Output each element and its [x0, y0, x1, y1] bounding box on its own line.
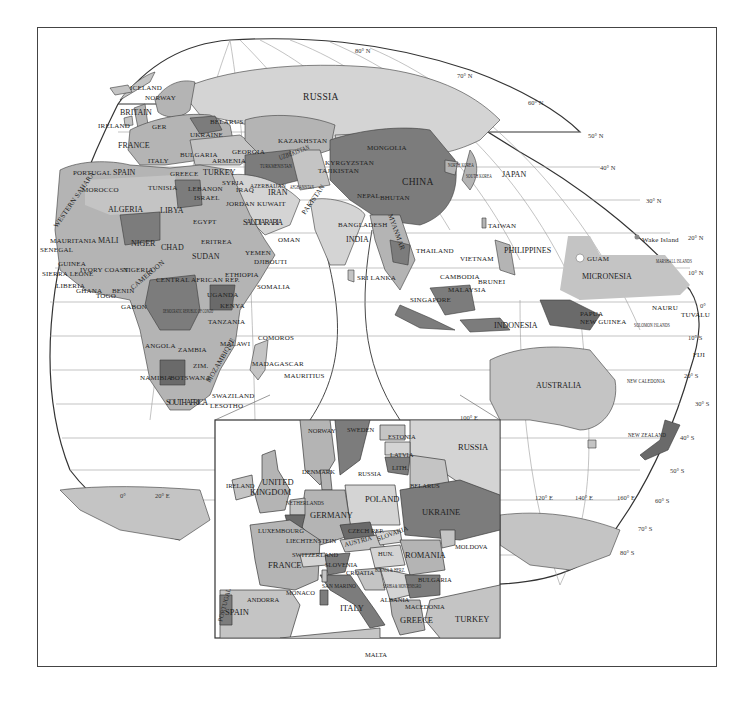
inset-label-czech: CZECH REP. [348, 527, 384, 534]
lat-50n: 50° N [588, 132, 604, 139]
label-afghanistan: AFGHANISTAN [290, 183, 314, 191]
label-tanzania: TANZANIA [208, 318, 245, 326]
label-spain: SPAIN [113, 168, 136, 177]
label-eritrea: ERITREA [201, 238, 232, 246]
label-papua: PAPUA [580, 310, 603, 318]
label-comoros: COMOROS [258, 334, 294, 342]
label-indonesia: INDONESIA [494, 321, 538, 330]
label-kazakhstan: KAZAKHSTAN [278, 137, 327, 145]
label-mongolia: MONGOLIA [367, 144, 407, 152]
inset-label-monaco: MONACO [286, 589, 315, 596]
label-niger: NIGER [131, 239, 156, 248]
label-brunei: BRUNEI [478, 278, 506, 286]
label-mali: MALI [98, 236, 119, 245]
label-zimbabwe: ZIM. [193, 362, 208, 370]
inset-label-croatia: CROATIA [346, 569, 374, 576]
lat-60n: 60° N [528, 99, 544, 106]
label-sri-lanka: SRI LANKA [357, 274, 396, 282]
inset-label-norway: NORWAY [308, 427, 336, 434]
label-lebanon: LEBANON [188, 185, 223, 193]
inset-label-poland: POLAND [365, 494, 399, 504]
label-italy: ITALY [148, 157, 169, 165]
label-nauru: NAURU [652, 304, 678, 312]
label-britain: BRITAIN [120, 108, 152, 117]
label-micronesia: MICRONESIA [582, 272, 632, 281]
label-south-korea: SOUTH KOREA [466, 172, 492, 180]
inset-label-moldova: MOLDOVA [455, 543, 488, 550]
wake-island-marker-icon [635, 235, 640, 240]
guam-marker-icon [576, 254, 584, 262]
label-north-korea: NORTH KOREA [448, 161, 474, 169]
label-south-africa: SOUTH AFRICA [166, 398, 208, 407]
inset-label-albania: ALBANIA [380, 596, 410, 603]
label-greece: GREECE [170, 170, 198, 178]
label-guam: GUAM [587, 255, 610, 263]
label-senegal: SENEGAL [40, 246, 73, 254]
lat-40s: 40° S [680, 434, 695, 441]
inset-label-bosnia: BOSNIA & HERZ. [375, 566, 405, 573]
label-zambia: ZAMBIA [178, 346, 207, 354]
inset-label-lithuania: LITH. [392, 464, 409, 471]
inset-label-estonia: ESTONIA [388, 433, 416, 440]
label-new-zealand: NEW ZEALAND [628, 431, 666, 439]
label-angola: ANGOLA [145, 342, 176, 350]
label-oman: OMAN [278, 236, 300, 244]
inset-label-sweden: SWEDEN [347, 426, 374, 433]
label-armenia: ARMENIA [212, 157, 246, 165]
label-australia: AUSTRALIA [536, 381, 582, 390]
inset-label-italy: ITALY [340, 603, 364, 613]
label-chad: CHAD [161, 243, 184, 252]
label-sudan: SUDAN [192, 252, 220, 261]
label-china: CHINA [402, 177, 434, 187]
label-yemen: YEMEN [245, 249, 271, 257]
lat-20s: 20° S [684, 372, 699, 379]
label-ireland: IRELAND [98, 122, 130, 130]
label-somalia: SOMALIA [257, 283, 290, 291]
label-drc: DEMOCRATIC REPUBLIC OF CONGO [163, 307, 213, 315]
label-taiwan: TAIWAN [488, 222, 516, 230]
label-swaziland: SWAZILAND [212, 392, 255, 400]
inset-label-romania: ROMANIA [405, 550, 446, 560]
inset-label-slovenia: SLOVENIA [325, 561, 358, 568]
label-ivory-coast: IVORY COAST [80, 266, 129, 274]
lat-70s: 70° S [638, 525, 653, 532]
label-thailand: THAILAND [416, 247, 454, 255]
label-france: FRANCE [118, 141, 150, 150]
label-germany-abbr: GER [152, 123, 167, 131]
inset-label-andorra: ANDORRA [247, 596, 279, 603]
label-kuwait: KUWAIT [257, 200, 286, 208]
lon-160e: 160° E [617, 494, 635, 501]
label-malaysia: MALAYSIA [448, 286, 486, 294]
label-ethiopia: ETHIOPIA [225, 271, 259, 279]
label-bhutan: BHUTAN [380, 194, 410, 202]
lon-20e: 20° E [155, 492, 170, 499]
lat-10n: 10° N [688, 269, 704, 276]
label-uganda: UGANDA [207, 291, 239, 299]
lon-140e: 140° E [575, 494, 593, 501]
lon-100e: 100° E [460, 414, 478, 421]
inset-label-switzerland: SWITZERLAND [292, 551, 339, 558]
label-saudi-arabia: SAUDI ARABIA [243, 218, 283, 227]
label-norway: NORWAY [145, 94, 176, 102]
lat-80n: 80° N [355, 47, 371, 54]
label-lesotho: LESOTHO [210, 402, 243, 410]
inset-label-germany: GERMANY [310, 510, 353, 520]
label-iran: IRAN [268, 188, 288, 197]
label-wake-island: Wake Island [642, 236, 679, 244]
label-iceland: ICELAND [130, 84, 162, 92]
inset-label-netherlands: NETHERLANDS [286, 499, 324, 506]
lat-equator: 0° [700, 302, 706, 309]
label-singapore: SINGAPORE [410, 296, 451, 304]
lat-10s: 10° S [688, 334, 703, 341]
label-fiji: FIJI [693, 351, 706, 359]
label-belarus: BELARUS [210, 118, 243, 126]
label-libya: LIBYA [160, 206, 184, 215]
lat-40n: 40° N [600, 164, 616, 171]
inset-label-macedonia: MACEDONIA [405, 603, 445, 610]
label-botswana: BOTSWANA [170, 374, 211, 382]
lat-30n: 30° N [646, 197, 662, 204]
inset-label-bulgaria: BULGARIA [418, 576, 452, 583]
lat-50s: 50° S [670, 467, 685, 474]
inset-label-greece: GREECE [400, 615, 433, 625]
lat-20n: 20° N [688, 234, 704, 241]
